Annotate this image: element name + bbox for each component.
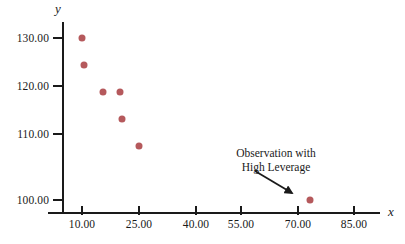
x-tick-mark	[297, 206, 299, 215]
y-tick-mark	[53, 199, 64, 201]
x-tick-label: 10.00	[69, 218, 95, 230]
data-point	[79, 35, 86, 42]
x-tick-mark	[195, 206, 197, 215]
annotation-line-2: High Leverage	[216, 161, 336, 175]
data-point	[117, 89, 124, 96]
y-tick-label: 130.00	[17, 32, 49, 44]
data-point	[118, 116, 125, 123]
data-point	[307, 197, 314, 204]
y-tick-mark	[53, 133, 64, 135]
x-axis-label: x	[388, 204, 394, 220]
x-tick-mark	[81, 206, 83, 215]
data-point	[80, 62, 87, 69]
x-tick-label: 70.00	[285, 218, 311, 230]
x-axis-line	[48, 212, 380, 214]
x-tick-mark	[353, 206, 355, 215]
x-tick-mark	[138, 206, 140, 215]
x-tick-label: 55.00	[228, 218, 254, 230]
scatter-plot-figure: y x 130.00 120.00 110.00 100.00 10.00 25…	[0, 0, 405, 244]
y-axis-line	[62, 22, 64, 214]
x-tick-label: 85.00	[341, 218, 367, 230]
y-tick-mark	[53, 37, 64, 39]
y-tick-label: 100.00	[17, 194, 49, 206]
y-tick-mark	[53, 85, 64, 87]
x-tick-label: 40.00	[183, 218, 209, 230]
x-tick-mark	[240, 206, 242, 215]
y-tick-label: 110.00	[17, 128, 49, 140]
y-tick-label: 120.00	[17, 80, 49, 92]
data-point	[136, 143, 143, 150]
x-tick-label: 25.00	[126, 218, 152, 230]
data-point	[99, 89, 106, 96]
annotation-line-1: Observation with	[216, 147, 336, 161]
high-leverage-annotation: Observation with High Leverage	[216, 147, 336, 174]
y-axis-label: y	[55, 1, 61, 17]
